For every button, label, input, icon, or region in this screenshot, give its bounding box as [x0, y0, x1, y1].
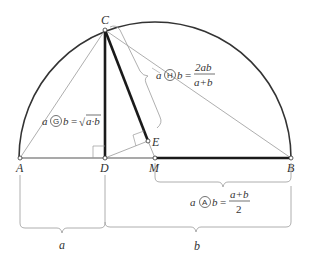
svg-text:b: b [63, 115, 69, 127]
svg-text:=: = [185, 69, 191, 81]
label-segment-b: b [194, 239, 200, 253]
point-C [103, 28, 107, 32]
svg-text:a+b: a+b [194, 76, 213, 88]
segment-CE-harmonic-mean [105, 30, 148, 141]
svg-text:2ab: 2ab [195, 61, 212, 73]
point-B [289, 156, 293, 160]
label-C: C [101, 13, 110, 27]
means-diagram: C A D M B E a b a G b = √ a·b a H b = 2a… [0, 0, 309, 267]
point-D [103, 156, 107, 160]
point-A [18, 156, 22, 160]
svg-text:H: H [167, 71, 173, 80]
segment-CB [105, 30, 291, 158]
svg-text:b: b [212, 196, 218, 208]
point-M [153, 156, 157, 160]
point-E [146, 139, 150, 143]
svg-text:a: a [190, 196, 196, 208]
formula-harmonic-mean: a H b = 2ab a+b [156, 61, 215, 88]
segment-AC [20, 30, 105, 158]
brace-b [105, 186, 291, 232]
brace-harmonic [110, 26, 161, 128]
right-angle-marker-D [93, 146, 105, 158]
label-E: E [151, 135, 160, 149]
brace-arithmetic [155, 163, 291, 187]
svg-text:=: = [71, 115, 77, 127]
svg-text:a+b: a+b [230, 188, 249, 200]
segment-DE [105, 141, 148, 158]
formula-arithmetic-mean: a A b = a+b 2 [190, 188, 250, 215]
label-A: A [15, 161, 24, 175]
svg-text:b: b [177, 69, 183, 81]
label-D: D [99, 161, 109, 175]
svg-text:2: 2 [236, 203, 242, 215]
brace-a [20, 175, 105, 233]
svg-text:√: √ [79, 116, 86, 128]
label-M: M [148, 161, 160, 175]
svg-text:G: G [53, 117, 59, 126]
svg-text:a: a [42, 115, 48, 127]
svg-text:A: A [202, 198, 208, 207]
svg-text:a: a [156, 69, 162, 81]
right-angle-marker-E [133, 131, 144, 146]
formula-geometric-mean: a G b = √ a·b [42, 115, 101, 128]
svg-text:a·b: a·b [86, 115, 100, 127]
svg-text:=: = [220, 196, 226, 208]
label-segment-a: a [59, 238, 65, 252]
